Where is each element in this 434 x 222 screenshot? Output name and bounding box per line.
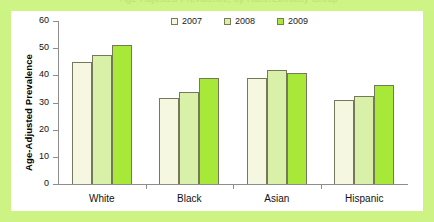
cropped-title-text: Age-Adjusted Prevalence, by Race/Ethnici… [120,0,338,4]
x-category-label-hispanic: Hispanic [321,193,409,204]
y-tick-label: 60 [39,15,49,25]
y-tick-label: 40 [39,69,49,79]
y-tick-label: 50 [39,42,49,52]
bar-group-black [146,21,234,184]
x-category-label-white: White [58,193,146,204]
bar-white-2007 [72,62,92,184]
x-category-label-asian: Asian [233,193,321,204]
bar-asian-2009 [287,73,307,184]
plot-area: 0102030405060 WhiteBlackAsianHispanic [58,21,408,184]
bar-white-2008 [92,55,112,184]
x-tick [233,184,234,189]
x-category-label-black: Black [146,193,234,204]
x-tick [321,184,322,189]
bar-hispanic-2009 [374,85,394,184]
y-tick-label: 10 [39,151,49,161]
bar-asian-2008 [267,70,287,184]
bar-group-asian [233,21,321,184]
x-tick [146,184,147,189]
y-tick-label: 30 [39,97,49,107]
bar-asian-2007 [247,78,267,184]
y-tick-label: 20 [39,124,49,134]
bar-hispanic-2008 [354,96,374,184]
bar-black-2009 [199,78,219,184]
bar-hispanic-2007 [334,100,354,184]
cropped-title-strip: Age-Adjusted Prevalence, by Race/Ethnici… [0,0,434,11]
y-tick: 0 [53,184,58,185]
bar-black-2007 [159,98,179,184]
y-tick-label: 0 [44,178,49,188]
bar-white-2009 [112,45,132,184]
bar-group-hispanic [321,21,409,184]
chart-figure: Age-Adjusted Prevalence, by Race/Ethnici… [0,0,434,222]
y-axis-label: Age-Adjusted Prevalence [23,38,34,188]
bar-black-2008 [179,92,199,184]
plot-panel: 2007 2008 2009 Age-Adjusted Prevalence 0… [11,11,423,211]
bar-group-white [58,21,146,184]
